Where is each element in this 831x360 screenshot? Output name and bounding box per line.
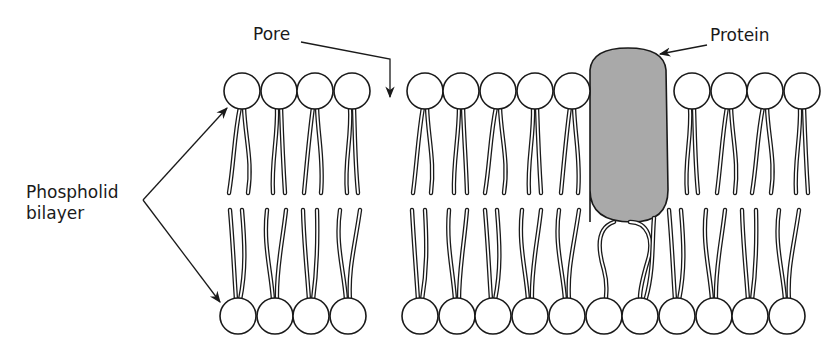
top-leaflet-tails	[229, 107, 808, 193]
phospholipid-head	[512, 298, 548, 334]
phospholipid-head	[261, 73, 297, 109]
phospholipid-head	[747, 73, 783, 109]
phospholipid-head	[674, 73, 710, 109]
lipid-tail	[717, 107, 727, 193]
lipid-tail	[561, 107, 570, 193]
protein-shape	[590, 48, 668, 222]
phospholipid-head	[224, 73, 260, 109]
phospholipid-label-line1: Phospholid	[26, 182, 119, 203]
phospholipid-head	[480, 73, 516, 109]
phospholipid-head	[293, 298, 329, 334]
phospholipid-arrow-top-icon	[143, 108, 227, 200]
phospholipid-head	[220, 298, 256, 334]
phospholipid-pointers	[143, 108, 227, 302]
phospholipid-head	[696, 298, 732, 334]
phospholipid-head	[402, 298, 438, 334]
phospholipid-head	[549, 298, 585, 334]
phospholipid-head	[711, 73, 747, 109]
phospholipid-head	[407, 73, 443, 109]
phospholipid-head	[517, 73, 553, 109]
phospholipid-head	[330, 298, 366, 334]
membrane-protein	[590, 48, 668, 298]
phospholipid-label-line2: bilayer	[26, 203, 84, 224]
phospholipid-head	[586, 298, 622, 334]
protein-pointer	[660, 45, 707, 54]
phospholipid-head	[622, 298, 658, 334]
phospholipid-head	[732, 298, 768, 334]
lipid-tail	[229, 107, 240, 193]
phospholipid-head	[297, 73, 333, 109]
bottom-leaflet-tails	[230, 210, 799, 300]
lipid-tail	[413, 107, 423, 193]
protein-arrow-icon	[660, 45, 707, 54]
phospholipid-head	[334, 73, 370, 109]
phospholipid-head	[554, 73, 590, 109]
protein-label: Protein	[710, 25, 770, 46]
lipid-tail	[304, 107, 313, 193]
lipid-tail	[485, 107, 496, 193]
membrane-diagram	[0, 0, 831, 360]
phospholipid-head	[257, 298, 293, 334]
phospholipid-arrow-bottom-icon	[143, 200, 220, 302]
lipid-tail	[752, 107, 763, 193]
bottom-leaflet-heads	[220, 298, 805, 334]
pore-label: Pore	[253, 24, 290, 45]
top-leaflet-heads	[224, 73, 820, 109]
phospholipid-head	[443, 73, 479, 109]
protein-anchor-tails	[600, 218, 654, 298]
phospholipid-head	[475, 298, 511, 334]
phospholipid-head	[439, 298, 475, 334]
phospholipid-head	[784, 73, 820, 109]
phospholipid-head	[769, 298, 805, 334]
phospholipid-head	[659, 298, 695, 334]
